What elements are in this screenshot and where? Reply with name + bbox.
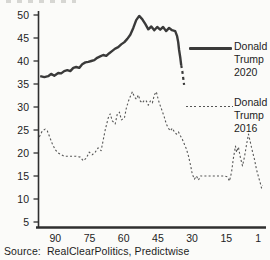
source-note: Source: RealClearPolitics, Predictwise [4,245,189,257]
x-tick-label: 60 [118,232,130,244]
y-tick-label: 15 [17,170,29,182]
legend-line-sample-2020 [189,47,232,50]
y-tick-label: 5 [23,216,29,228]
y-tick-label: 25 [17,124,29,136]
legend-item-trump-2016: Donald Trump 2016 [234,96,267,135]
x-tick-label: 1 [255,232,261,244]
legend-label-2020-line2: Trump [234,53,267,66]
x-tick-label: 15 [220,232,232,244]
legend-label-2016-line1: Donald [234,96,267,109]
legend-item-trump-2020: Donald Trump 2020 [234,40,267,79]
x-tick-label: 30 [186,232,198,244]
y-tick-label: 35 [17,78,29,90]
legend-label-2020-line3: 2020 [234,66,267,79]
y-tick-label: 50 [17,9,29,21]
y-tick-label: 20 [17,147,29,159]
y-tick-label: 30 [17,101,29,113]
y-tick-label: 45 [17,32,29,44]
x-tick-label: 90 [49,232,61,244]
chart-figure: 51015202530354045509075604530151 Donald … [0,0,270,260]
x-tick-label: 75 [84,232,96,244]
legend-label-2016-line3: 2016 [234,122,267,135]
x-tick-label: 45 [152,232,164,244]
chart-svg: 51015202530354045509075604530151 [0,0,270,260]
legend-label-2016-line2: Trump [234,109,267,122]
legend-line-sample-2016 [186,106,233,107]
series-line-0-donald-trump-2020 [40,16,181,77]
legend-label-2020-line1: Donald [234,40,267,53]
y-tick-label: 40 [17,55,29,67]
series-line-1-donald-trump-2020-final-sparse-dashes- [181,65,184,85]
y-tick-label: 10 [17,193,29,205]
